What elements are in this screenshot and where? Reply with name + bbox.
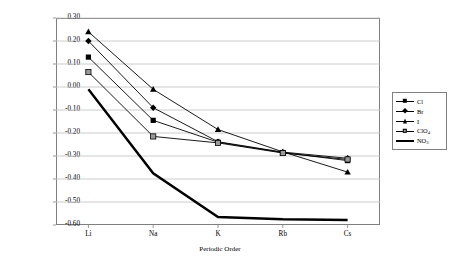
data-point-square (151, 118, 156, 123)
data-point-square (86, 55, 91, 60)
legend-item-I[interactable]: I (395, 116, 443, 126)
legend-label-NO3: NO3 (415, 137, 429, 145)
legend-label-subscript: 3 (426, 140, 428, 145)
data-point-triangle (215, 126, 221, 132)
legend-item-NO3[interactable]: NO3 (395, 136, 443, 146)
legend-marker-triangle-icon (395, 117, 415, 126)
legend-item-Cl[interactable]: Cl (395, 96, 443, 106)
legend-label-ClO4: ClO4 (415, 127, 430, 135)
legend-label-Cl: Cl (415, 98, 423, 105)
series-line-ClO4 (88, 72, 347, 159)
data-point-square-outline (86, 69, 91, 74)
legend-label-I: I (415, 118, 419, 125)
data-point-triangle (85, 29, 91, 35)
series-line-I (88, 32, 347, 172)
legend-marker-square-icon (395, 97, 415, 106)
legend-item-Br[interactable]: Br (395, 106, 443, 116)
legend-item-ClO4[interactable]: ClO4 (395, 126, 443, 136)
legend-marker-diamond-icon (395, 107, 415, 116)
legend-marker-square-outline-icon (395, 127, 415, 136)
data-point-square-outline (280, 150, 285, 155)
legend-marker-none-icon (395, 137, 415, 146)
chart-legend: ClBrIClO4NO3 (392, 92, 447, 150)
chart-container: 0.300.200.100.00-0.10-0.20-0.30-0.40-0.5… (0, 0, 464, 262)
data-point-square-outline (215, 140, 220, 145)
legend-label-Br: Br (415, 108, 423, 115)
data-point-square-outline (345, 157, 350, 162)
data-point-square-outline (151, 134, 156, 139)
legend-label-subscript: 4 (428, 130, 430, 135)
